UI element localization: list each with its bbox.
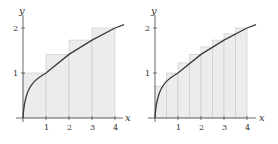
x-tick-label: 4 bbox=[113, 123, 118, 132]
x-tick-label: 3 bbox=[90, 123, 95, 132]
x-tick-label: 1 bbox=[176, 123, 181, 132]
x-tick-label: 2 bbox=[199, 123, 204, 132]
y-axis-label: y bbox=[150, 5, 157, 16]
right-plot: 1 2 3 4 1 2 x y bbox=[145, 5, 265, 132]
rect-4 bbox=[92, 28, 115, 118]
x-tick-label: 1 bbox=[44, 123, 49, 132]
left-rectangles bbox=[23, 28, 115, 118]
riemann-sum-figure: 1 2 3 4 1 2 x y 1 2 3 4 bbox=[0, 0, 278, 144]
y-axis-label: y bbox=[18, 5, 25, 16]
y-tick-label: 1 bbox=[145, 69, 150, 78]
right-rectangles bbox=[155, 28, 247, 118]
x-axis-label: x bbox=[259, 112, 265, 123]
y-tick-label: 2 bbox=[13, 24, 18, 33]
left-plot: 1 2 3 4 1 2 x y bbox=[13, 5, 131, 132]
x-tick-label: 4 bbox=[245, 123, 250, 132]
x-tick-label: 2 bbox=[67, 123, 72, 132]
x-tick-label: 3 bbox=[222, 123, 227, 132]
y-tick-label: 1 bbox=[13, 69, 18, 78]
x-axis-label: x bbox=[125, 112, 131, 123]
y-tick-label: 2 bbox=[145, 24, 150, 33]
